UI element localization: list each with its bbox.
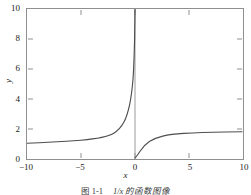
plot-area	[26, 8, 244, 160]
y-axis-title: y	[3, 69, 13, 93]
figure-caption-text: 1/x 的函数图像	[113, 186, 171, 195]
y-tick-label-8: 8	[0, 34, 20, 43]
chart-canvas	[27, 9, 243, 159]
figure-container: 10 8 6 4 2 0 −10 −5 0 5 10 x y 图 1-11/x …	[0, 0, 251, 195]
curve-left-branch	[27, 9, 135, 143]
y-tick-label-4: 4	[0, 95, 20, 104]
figure-caption: 图 1-11/x 的函数图像	[0, 186, 251, 195]
curve-right-branch	[135, 132, 242, 158]
y-tick-label-10: 10	[0, 4, 20, 13]
x-axis-title: x	[0, 170, 251, 180]
figure-caption-number: 图 1-1	[81, 186, 103, 195]
y-tick-label-2: 2	[0, 125, 20, 134]
